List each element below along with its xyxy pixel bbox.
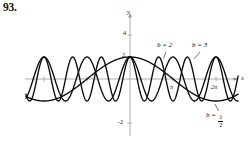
leader-line-b3 [194,52,200,59]
y-tick-label-neg2: -2 [118,119,123,125]
leader-line-b2 [164,52,167,59]
curve-annotation-bhalf-prefix: b = [206,111,218,119]
curve-annotation-b3-prefix: b = [192,41,204,49]
fraction-one-half: 12 [218,114,223,127]
fraction-numerator: 1 [218,114,223,120]
y-axis-label: y [127,9,130,15]
fraction-denominator: 2 [218,122,223,128]
curve-annotation-b2-value: 2 [169,41,173,49]
curve-annotation-b2: b = 2 [157,42,172,49]
leader-line-bhalf [215,104,219,111]
y-tick-label-2: 2 [122,52,125,58]
curve-annotation-b2-prefix: b = [157,41,169,49]
x-tick-label-2pi: 2π [211,84,217,90]
x-tick-label-pi: π [170,84,173,90]
leader-lines-group [164,52,219,111]
x-axis-label: x [241,75,244,81]
curve-annotation-b3-value: 3 [204,41,208,49]
figure-container: 93. y x 4 2 -2 π 2π [0,0,252,148]
curve-annotation-b3: b = 3 [192,42,207,49]
curve-annotation-b-one-half: b = 12 [206,112,223,128]
y-tick-label-4: 4 [123,30,126,36]
